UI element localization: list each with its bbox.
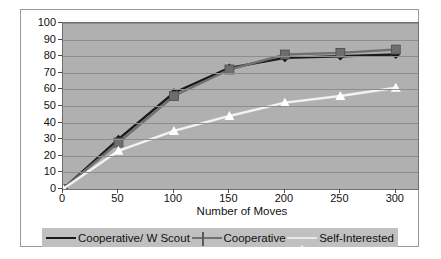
square-marker (192, 233, 222, 243)
gridline (63, 156, 418, 157)
y-tick-label: 90 (30, 34, 56, 44)
gridline (63, 172, 418, 173)
legend-item-cooperative[interactable]: Cooperative (192, 232, 286, 244)
gridline (63, 23, 418, 24)
x-tick-mark (117, 189, 118, 193)
x-tick-label: 100 (153, 192, 193, 204)
y-tick-label: 60 (30, 83, 56, 93)
x-tick-mark (228, 189, 229, 193)
y-tick-mark (58, 72, 62, 73)
x-tick-mark (62, 189, 63, 193)
y-tick-label: 20 (30, 150, 56, 160)
y-tick-mark (58, 155, 62, 156)
y-tick-label: 70 (30, 67, 56, 77)
y-tick-mark (58, 39, 62, 40)
y-tick-mark (58, 22, 62, 23)
x-axis-title: Number of Moves (62, 205, 422, 217)
x-tick-mark (284, 189, 285, 193)
y-tick-label: 30 (30, 133, 56, 143)
x-tick-label: 300 (375, 192, 415, 204)
plot-area (62, 22, 419, 190)
y-tick-mark (58, 138, 62, 139)
x-tick-mark (173, 189, 174, 193)
y-tick-label: 80 (30, 50, 56, 60)
x-tick-mark (395, 189, 396, 193)
y-tick-label: 100 (30, 17, 56, 27)
x-tick-label: 0 (42, 192, 82, 204)
gridline (63, 123, 418, 124)
y-tick-label: 40 (30, 117, 56, 127)
y-tick-label: 10 (30, 166, 56, 176)
gridline (63, 73, 418, 74)
gridline (63, 56, 418, 57)
x-tick-label: 250 (319, 192, 359, 204)
legend-item-self-interested[interactable]: Self-Interested (287, 232, 394, 244)
legend-item-cooperative-w-scout[interactable]: Cooperative/ W Scout (46, 232, 190, 244)
y-tick-mark (58, 55, 62, 56)
gridline (63, 89, 418, 90)
chart-legend: Cooperative/ W Scout Cooperative Self-In… (42, 228, 398, 247)
x-tick-label: 150 (208, 192, 248, 204)
y-tick-mark (58, 171, 62, 172)
y-tick-mark (58, 122, 62, 123)
triangle-marker (287, 233, 317, 243)
chart-screenshot: % Samples Collected 01020304050607080901… (0, 0, 441, 259)
x-tick-mark (339, 189, 340, 193)
gridline (63, 40, 418, 41)
gridline (63, 106, 418, 107)
diamond-marker (46, 233, 76, 243)
legend-label: Cooperative/ W Scout (78, 232, 190, 244)
gridline (63, 139, 418, 140)
chart-canvas: % Samples Collected 01020304050607080901… (0, 0, 441, 259)
x-tick-label: 50 (97, 192, 137, 204)
x-tick-label: 200 (264, 192, 304, 204)
y-tick-label: 50 (30, 100, 56, 110)
legend-label: Self-Interested (319, 232, 394, 244)
legend-label: Cooperative (224, 232, 286, 244)
y-tick-mark (58, 88, 62, 89)
y-tick-mark (58, 105, 62, 106)
